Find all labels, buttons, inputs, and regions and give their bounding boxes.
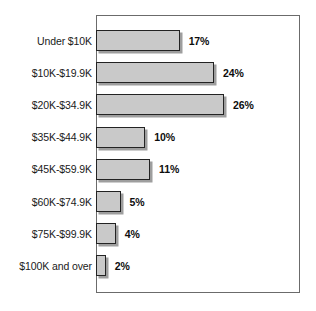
bar-row: $10K-$19.9K24% [0, 62, 316, 83]
bar-category-label: $20K-$34.9K [32, 99, 92, 111]
bar-category-label: Under $10K [37, 35, 92, 47]
bar[interactable] [96, 159, 150, 180]
bar-category-label: $75K-$99.9K [32, 228, 92, 240]
bar-category-label: $100K and over [19, 260, 92, 272]
bar-row: $100K and over2% [0, 255, 316, 276]
bar-value-label: 2% [115, 260, 130, 272]
bar-wrapper: 10% [96, 127, 205, 148]
bar-value-label: 4% [125, 228, 140, 240]
bar-value-label: 26% [233, 99, 254, 111]
bar-chart: Under $10K17%$10K-$19.9K24%$20K-$34.9K26… [0, 0, 316, 311]
plot-area-frame [96, 15, 300, 293]
bar-wrapper: 11% [96, 159, 210, 180]
bar-value-label: 11% [159, 163, 179, 175]
bar-category-label: $45K-$59.9K [32, 163, 92, 175]
bar-category-label: $10K-$19.9K [32, 67, 92, 79]
bar-wrapper: 17% [96, 30, 240, 51]
bar-row: $35K-$44.9K10% [0, 127, 316, 148]
bar-row: $60K-$74.9K5% [0, 191, 316, 212]
bar[interactable] [96, 127, 145, 148]
bar-wrapper: 4% [96, 223, 176, 244]
bar-value-label: 10% [154, 131, 175, 143]
bar-row: $20K-$34.9K26% [0, 94, 316, 115]
bar[interactable] [96, 94, 224, 115]
bar-row: Under $10K17% [0, 30, 316, 51]
bar[interactable] [96, 255, 106, 276]
bar-category-label: $60K-$74.9K [32, 196, 92, 208]
bar-row: $75K-$99.9K4% [0, 223, 316, 244]
bar[interactable] [96, 30, 180, 51]
bar[interactable] [96, 62, 214, 83]
bar-row: $45K-$59.9K11% [0, 159, 316, 180]
bar[interactable] [96, 191, 121, 212]
bar-value-label: 5% [130, 196, 145, 208]
bar-wrapper: 26% [96, 94, 284, 115]
bar-wrapper: 24% [96, 62, 274, 83]
bar-wrapper: 5% [96, 191, 181, 212]
bar-category-label: $35K-$44.9K [32, 131, 92, 143]
bar-wrapper: 2% [96, 255, 166, 276]
bar[interactable] [96, 223, 116, 244]
bar-value-label: 24% [223, 67, 244, 79]
bar-value-label: 17% [189, 35, 210, 47]
